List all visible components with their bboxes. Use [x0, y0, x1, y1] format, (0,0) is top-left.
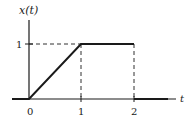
y-tick-label-1: 1 — [16, 39, 22, 50]
x-tick-label-2: 2 — [131, 106, 137, 117]
y-axis-label: x(t) — [19, 4, 38, 17]
signal-curve — [12, 44, 134, 99]
x-tick-label-1: 1 — [78, 106, 84, 117]
x-axis-label: t — [180, 93, 185, 104]
signal-plot: x(t) t 1 0 1 2 — [0, 0, 192, 121]
x-tick-label-0: 0 — [27, 106, 33, 117]
